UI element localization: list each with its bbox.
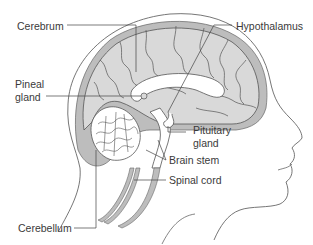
label-spinal-cord: Spinal cord (169, 174, 222, 186)
brain-anatomy-diagram (0, 0, 313, 245)
label-cerebellum: Cerebellum (18, 222, 72, 234)
mouth-line (278, 164, 292, 170)
label-brain-stem: Brain stem (169, 154, 219, 166)
label-pineal-line2: gland (15, 91, 41, 103)
label-hypothalamus: Hypothalamus (236, 20, 303, 32)
label-pituitary-line1: Pituitary (193, 124, 231, 136)
pineal-gland-shape (141, 93, 147, 99)
label-cerebrum: Cerebrum (17, 20, 64, 32)
spinal-cord-shape (98, 168, 160, 228)
label-pituitary-line2: gland (193, 137, 219, 149)
label-pineal-line1: Pineal (15, 78, 44, 90)
neck-line (162, 214, 195, 244)
